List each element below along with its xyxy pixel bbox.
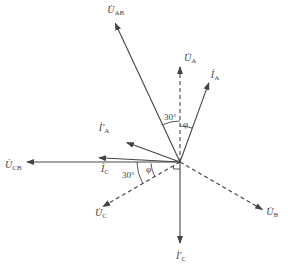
phasor-label-u-b: U̇B <box>266 206 278 219</box>
phasor-label-i-c-p: İ′C <box>175 250 187 263</box>
phasor-label-i-c: İC <box>100 163 109 176</box>
right-angle-marker <box>174 166 181 170</box>
angle-label-lower-phi: φ <box>146 164 151 174</box>
angle-arc-lower-phi <box>151 164 155 177</box>
phasor-label-u-c: U̇C <box>95 207 107 220</box>
angle-arc-lower-30 <box>137 162 143 184</box>
phasor-u-ab <box>115 23 180 162</box>
phasor-diagram: 30° φ 30° φ U̇ABU̇AİAİ′AU̇CBİCU̇CU̇BI… <box>0 0 291 275</box>
angle-label-lower-30: 30° <box>122 170 135 180</box>
phasor-layer <box>27 23 262 243</box>
phasor-label-u-cb: U̇CB <box>5 159 22 172</box>
phasor-label-i-a-p: İ′A <box>98 122 110 135</box>
phasor-i-c <box>99 158 180 162</box>
phasor-u-b <box>180 162 262 209</box>
angle-label-upper-phi: φ <box>183 119 188 129</box>
phasor-label-u-ab: U̇AB <box>107 4 124 17</box>
angle-label-upper-30: 30° <box>164 112 177 122</box>
phasor-label-u-a: U̇A <box>184 52 196 65</box>
phasor-label-i-a: İA <box>210 69 219 82</box>
label-layer: U̇ABU̇AİAİ′AU̇CBİCU̇CU̇Bİ′C <box>5 4 278 263</box>
phasor-u-c <box>103 162 180 206</box>
